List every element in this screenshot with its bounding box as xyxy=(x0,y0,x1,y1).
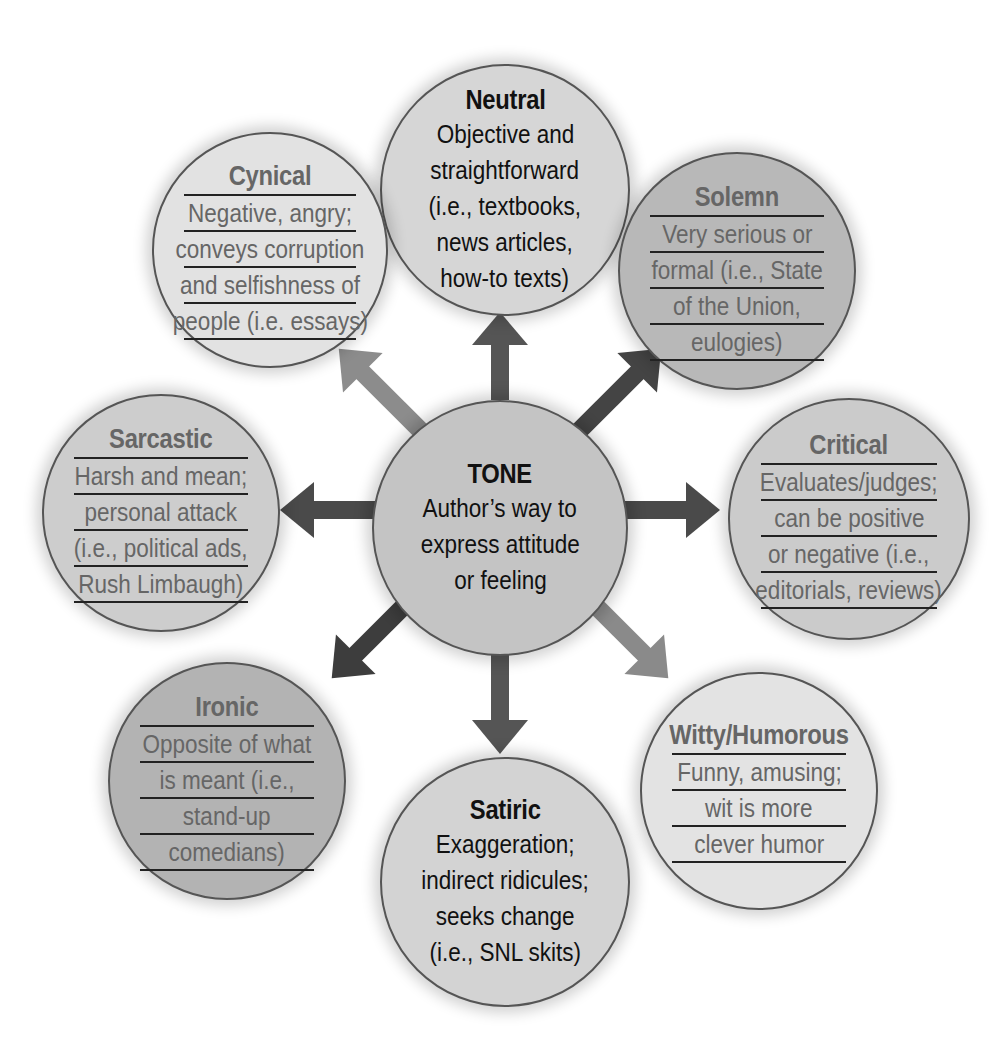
node-text: (i.e., political ads, xyxy=(74,531,248,565)
node-text: or negative (i.e., xyxy=(768,537,929,571)
node-text: eulogies) xyxy=(691,325,782,359)
node-neutral: Neutral Objective and straightforward (i… xyxy=(380,64,630,316)
center-text: Author’s way to xyxy=(423,490,577,526)
node-text: Objective and xyxy=(436,116,574,152)
node-text: comedians) xyxy=(169,835,285,869)
node-text: Rush Limbaugh) xyxy=(78,567,243,601)
node-text: editorials, reviews) xyxy=(756,573,942,607)
node-text: Very serious or xyxy=(662,217,812,251)
center-title: TONE xyxy=(468,459,533,490)
node-title: Ironic xyxy=(195,692,258,725)
node-title: Satiric xyxy=(470,795,541,826)
arrow-neutral xyxy=(472,312,528,400)
node-solemn: Solemn Very serious or formal (i.e., Sta… xyxy=(618,152,856,390)
node-text: seeks change xyxy=(436,898,575,934)
node-text: indirect ridicules; xyxy=(421,862,589,898)
node-text: can be positive xyxy=(774,501,924,535)
node-text: formal (i.e., State xyxy=(651,253,822,287)
node-title: Witty/Humorous xyxy=(669,720,849,753)
rule-line xyxy=(672,861,845,863)
node-title: Solemn xyxy=(695,182,779,215)
node-text: Negative, angry; xyxy=(188,196,352,230)
node-text: straightforward xyxy=(431,152,580,188)
node-satiric: Satiric Exaggeration; indirect ridicules… xyxy=(380,757,630,1007)
node-title: Critical xyxy=(810,430,888,463)
center-text: or feeling xyxy=(454,562,547,598)
node-title: Cynical xyxy=(229,161,312,194)
node-text: clever humor xyxy=(694,827,824,861)
node-text: conveys corruption xyxy=(176,232,365,266)
center-text: express attitude xyxy=(421,526,580,562)
node-text: how-to texts) xyxy=(441,260,570,296)
node-text: (i.e., SNL skits) xyxy=(429,934,581,970)
node-text: and selfishness of xyxy=(180,268,360,302)
rule-line xyxy=(184,338,356,340)
rule-line xyxy=(761,607,937,609)
node-text: Evaluates/judges; xyxy=(760,465,938,499)
node-text: people (i.e. essays) xyxy=(172,304,367,338)
node-text: Opposite of what xyxy=(143,727,312,761)
node-witty: Witty/Humorous Funny, amusing; wit is mo… xyxy=(640,672,878,910)
node-text: of the Union, xyxy=(673,289,801,323)
center-tone: TONE Author’s way to express attitude or… xyxy=(372,400,628,656)
rule-line xyxy=(74,601,247,603)
rule-line xyxy=(140,869,313,871)
node-critical: Critical Evaluates/judges; can be positi… xyxy=(728,398,970,640)
node-text: Funny, amusing; xyxy=(677,755,842,789)
rule-line xyxy=(650,359,823,361)
node-text: Harsh and mean; xyxy=(75,459,248,493)
node-title: Neutral xyxy=(465,85,545,116)
tone-diagram: Neutral Objective and straightforward (i… xyxy=(0,0,999,1058)
node-text: news articles, xyxy=(437,224,573,260)
node-sarcastic: Sarcastic Harsh and mean; personal attac… xyxy=(42,394,280,632)
node-text: wit is more xyxy=(705,791,813,825)
node-text: stand-up xyxy=(183,799,271,833)
node-title: Sarcastic xyxy=(109,424,212,457)
node-text: personal attack xyxy=(85,495,238,529)
node-text: (i.e., textbooks, xyxy=(429,188,582,224)
node-text: is meant (i.e., xyxy=(159,763,294,797)
node-cynical: Cynical Negative, angry; conveys corrupt… xyxy=(152,132,388,368)
node-ironic: Ironic Opposite of what is meant (i.e., … xyxy=(108,662,346,900)
node-text: Exaggeration; xyxy=(436,826,575,862)
